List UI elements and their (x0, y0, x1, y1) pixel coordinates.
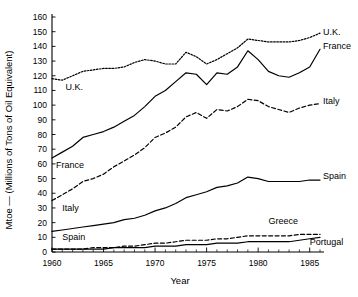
chart-canvas: Mtoe — (Millions of Tons of Oil Equivale… (0, 0, 358, 297)
y-tick-label: 80 (38, 130, 48, 140)
x-tick-label: 1985 (300, 258, 319, 268)
x-axis-title: Year (170, 275, 189, 286)
x-tick-label: 1970 (146, 258, 165, 268)
series-label-right-spain: Spain (323, 171, 346, 181)
y-tick-label: 140 (33, 41, 47, 51)
series-label-left-france: France (56, 160, 84, 170)
y-axis-tick-labels: 0102030405060708090100110120130140150160 (33, 12, 47, 257)
y-tick-label: 0 (42, 247, 47, 257)
series-label-right-france: France (323, 41, 351, 51)
y-tick-label: 130 (33, 56, 47, 66)
y-tick-label: 70 (38, 144, 48, 154)
y-tick-label: 160 (33, 12, 47, 22)
series-label-right-portugal: Portugal (310, 237, 344, 247)
y-tick-label: 30 (38, 203, 48, 213)
series-label-left-uk: U.K. (65, 82, 83, 92)
x-tick-label: 1975 (197, 258, 216, 268)
x-tick-label: 1980 (249, 258, 268, 268)
y-tick-label: 100 (33, 100, 47, 110)
x-axis-title-text: Year (170, 275, 189, 286)
series-label-right-italy: Italy (323, 96, 340, 106)
series-label-right-uk: U.K. (323, 27, 341, 37)
x-axis-tick-labels: 196019651970197519801985 (43, 258, 320, 268)
line-chart: Mtoe — (Millions of Tons of Oil Equivale… (0, 0, 358, 297)
series-line-france (52, 49, 320, 158)
y-axis-title-text: Mtoe — (Millions of Tons of Oil Equivale… (3, 51, 14, 230)
x-tick-label: 1960 (43, 258, 62, 268)
y-tick-label: 50 (38, 174, 48, 184)
y-tick-label: 150 (33, 27, 47, 37)
series-line-italy (52, 99, 320, 200)
x-tick-label: 1965 (94, 258, 113, 268)
y-tick-label: 110 (33, 85, 47, 95)
y-axis-title: Mtoe — (Millions of Tons of Oil Equivale… (3, 51, 14, 230)
y-tick-label: 90 (38, 115, 48, 125)
series-label-left-spain: Spain (62, 232, 85, 242)
y-tick-label: 20 (38, 218, 48, 228)
y-tick-label: 120 (33, 71, 47, 81)
y-tick-label: 40 (38, 188, 48, 198)
y-tick-label: 10 (38, 232, 48, 242)
series-inline-labels: U.K.FranceItalySpainU.K.FranceItalySpain… (56, 27, 351, 247)
series-label-left-italy: Italy (62, 203, 79, 213)
series-label-right-greece: Greece (268, 216, 298, 226)
y-tick-label: 60 (38, 159, 48, 169)
